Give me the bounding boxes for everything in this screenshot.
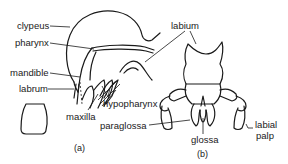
label-labium: labium xyxy=(171,21,199,31)
label-maxilla: maxilla xyxy=(66,112,96,122)
label-palp: palp xyxy=(256,131,274,141)
label-hypopharynx: hypopharynx xyxy=(103,99,157,109)
label-glossa: glossa xyxy=(191,135,218,145)
label-labrum: labrum xyxy=(19,84,48,94)
label-clypeus: clypeus xyxy=(17,21,49,31)
caption-b: (b) xyxy=(197,150,208,159)
labium-b xyxy=(149,42,253,134)
head-outline-a xyxy=(67,11,160,92)
labrum-outline xyxy=(21,104,47,134)
caption-a: (a) xyxy=(74,144,85,153)
label-labial: labial xyxy=(255,120,277,130)
insect-mouthparts-diagram: clypeus pharynx mandible labrum maxilla … xyxy=(0,0,288,164)
label-paraglossa: paraglossa xyxy=(100,121,146,131)
label-mandible: mandible xyxy=(10,68,49,78)
label-pharynx: pharynx xyxy=(15,38,49,48)
